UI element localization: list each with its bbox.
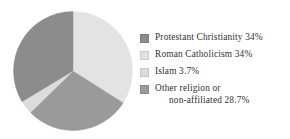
legend-swatch-icon-islam bbox=[140, 68, 149, 77]
legend-label-other-religion-line2: non-affiliated 28.7% bbox=[155, 95, 249, 107]
legend-swatch-icon-roman-catholicism bbox=[140, 51, 149, 60]
legend-item-roman-catholicism: Roman Catholicism 34% bbox=[140, 49, 288, 61]
legend-item-islam: Islam 3.7% bbox=[140, 66, 288, 78]
legend-label-roman-catholicism: Roman Catholicism 34% bbox=[155, 49, 252, 61]
legend-swatch-icon-other-religion bbox=[140, 85, 149, 94]
legend-item-other-religion: Other religion ornon-affiliated 28.7% bbox=[140, 83, 288, 106]
legend-label-other-religion-line1: Other religion or bbox=[155, 83, 221, 93]
legend-item-protestant-christianity: Protestant Christianity 34% bbox=[140, 32, 288, 44]
chart-legend: Protestant Christianity 34% Roman Cathol… bbox=[140, 32, 288, 112]
legend-label-islam: Islam 3.7% bbox=[155, 66, 199, 78]
legend-swatch-icon-protestant-christianity bbox=[140, 34, 149, 43]
legend-label-protestant-christianity: Protestant Christianity 34% bbox=[155, 32, 263, 44]
pie-chart-figure: Protestant Christianity 34% Roman Cathol… bbox=[0, 0, 290, 139]
pie-slice-group bbox=[14, 12, 133, 131]
pie-svg bbox=[13, 11, 133, 131]
legend-label-other-religion: Other religion ornon-affiliated 28.7% bbox=[155, 83, 249, 106]
pie-chart-graphic bbox=[13, 11, 133, 131]
